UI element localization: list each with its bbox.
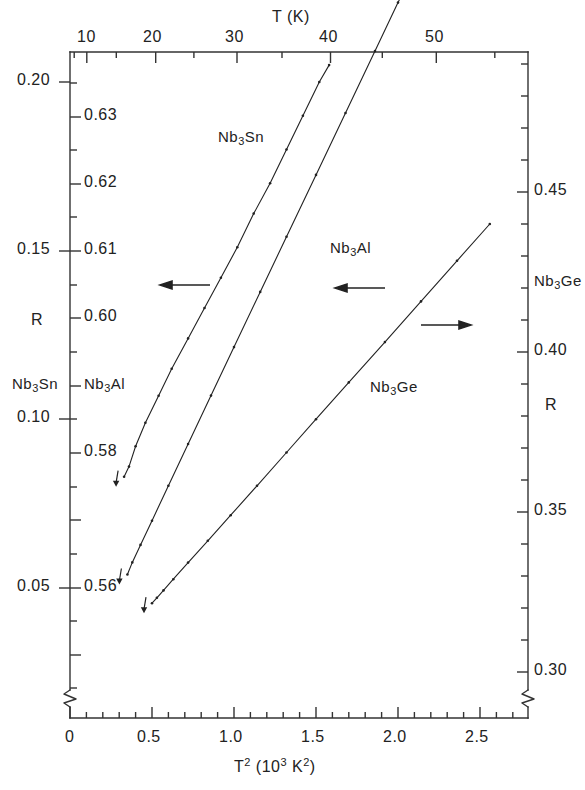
data-point (187, 337, 190, 340)
data-point (170, 367, 173, 370)
left-outer-tick-label-0.20: 0.20 (17, 71, 50, 89)
subscript-3: 3 (104, 382, 111, 394)
figure-canvas: T (K) 10 20 30 40 50 0.20 0.15 0.10 0.05… (0, 0, 585, 790)
subscript-3: 3 (554, 279, 561, 291)
top-tick-label-10: 10 (77, 28, 96, 46)
bottom-axis-title: T2 (103 K2) (234, 756, 316, 776)
left-inner-tick-label-0.63: 0.63 (84, 106, 117, 124)
data-point (302, 114, 305, 117)
data-point (187, 443, 190, 446)
data-point (256, 485, 259, 488)
left-inner-tick-label-0.62: 0.62 (84, 173, 117, 191)
nb-text: Nb (12, 375, 32, 392)
nb-text: Nb (218, 128, 238, 145)
sn-text: Sn (39, 375, 58, 392)
series-NbGe (141, 223, 491, 614)
data-point (384, 341, 387, 344)
data-point (139, 544, 142, 547)
data-point (315, 418, 318, 421)
data-point (233, 346, 236, 349)
superscript-2b: 2 (303, 756, 310, 768)
data-point (126, 573, 129, 576)
bottom-tick-label-2.0: 2.0 (383, 728, 407, 746)
data-point (151, 602, 154, 605)
data-point (397, 1, 400, 4)
data-point (489, 223, 492, 226)
top-tick-label-30: 30 (225, 28, 244, 46)
top-tick-label-20: 20 (143, 28, 162, 46)
left-series-label-nb3al: Nb3Al (84, 375, 125, 394)
data-point (236, 246, 239, 249)
left-inner-tick-label-0.61: 0.61 (84, 240, 117, 258)
arrow-nb3ge-right (421, 321, 471, 329)
transition-arrow (116, 569, 122, 585)
series-line (124, 65, 329, 477)
data-point (172, 578, 175, 581)
right-tick-label-0.30: 0.30 (534, 661, 567, 679)
top-tick-label-50: 50 (425, 28, 444, 46)
curve-label-nb3al: Nb3Al (330, 239, 371, 258)
right-axis-break-icon (522, 690, 534, 707)
bottom-tick-label-1.5: 1.5 (301, 728, 325, 746)
t-symbol: T (234, 758, 244, 775)
data-point (128, 465, 131, 468)
subscript-3: 3 (238, 135, 245, 147)
top-tick-label-40: 40 (319, 28, 338, 46)
data-point (344, 112, 347, 115)
bottom-tick-label-0: 0 (65, 728, 74, 746)
left-outer-tick-label-0.05: 0.05 (17, 577, 50, 595)
right-series-label-nb3ge: Nb3Ge (534, 272, 582, 291)
left-outer-tick-label-0.10: 0.10 (17, 408, 50, 426)
data-point (269, 182, 272, 185)
subscript-3: 3 (390, 385, 397, 397)
data-point (328, 64, 331, 67)
nb-text: Nb (534, 272, 554, 289)
top-axis-title: T (K) (272, 8, 310, 26)
data-point (374, 50, 377, 53)
arrow-nb3al-left (335, 284, 385, 292)
superscript-2: 2 (244, 756, 251, 768)
data-point (252, 212, 255, 215)
data-point (123, 475, 126, 478)
left-inner-tick-label-0.60: 0.60 (84, 307, 117, 325)
data-point (315, 174, 318, 177)
top-axis-ticks (74, 52, 495, 63)
left-inner-tick-label-0.56: 0.56 (84, 577, 117, 595)
left-outer-tick-label-0.15: 0.15 (17, 240, 50, 258)
right-tick-label-0.35: 0.35 (534, 501, 567, 519)
data-point (151, 519, 154, 522)
left-axis-R-label: R (31, 311, 43, 329)
al-text: Al (357, 239, 371, 256)
bottom-axis-ticks (70, 707, 513, 718)
data-curves (113, 0, 491, 613)
sn-text: Sn (245, 128, 264, 145)
data-point (229, 514, 232, 517)
data-point (210, 394, 213, 397)
ge-text: Ge (397, 378, 418, 395)
right-tick-label-0.40: 0.40 (534, 341, 567, 359)
left-axis-break-icon (64, 690, 76, 707)
series-NbAl (116, 0, 412, 584)
curve-label-nb3ge: Nb3Ge (370, 378, 418, 397)
k-symbol: K (287, 758, 303, 775)
data-point (162, 589, 165, 592)
data-point (285, 451, 288, 454)
right-axis-R-label: R (545, 396, 557, 414)
arrow-nb3sn-left (160, 281, 210, 289)
data-point (220, 276, 223, 279)
data-point (203, 307, 206, 310)
right-tick-label-0.45: 0.45 (534, 181, 567, 199)
right-axis-ticks (517, 64, 528, 672)
data-point (134, 445, 137, 448)
bottom-tick-label-1.0: 1.0 (219, 728, 243, 746)
ge-text: Ge (561, 272, 582, 289)
data-point (348, 381, 351, 384)
data-point (157, 394, 160, 397)
transition-arrow (113, 471, 119, 487)
data-point (131, 561, 134, 564)
data-point (420, 300, 423, 303)
data-point (167, 484, 170, 487)
bottom-tick-label-0.5: 0.5 (137, 728, 161, 746)
subscript-3: 3 (32, 382, 39, 394)
left-series-label-nb3sn: Nb3Sn (12, 375, 58, 394)
